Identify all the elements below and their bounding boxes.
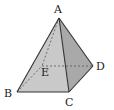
vertex-label-c: C (65, 96, 73, 109)
pyramid-svg: A B C D E (0, 0, 114, 110)
vertex-label-a: A (53, 3, 63, 16)
vertex-label-d: D (96, 60, 105, 73)
vertex-label-e: E (41, 66, 49, 79)
vertex-label-b: B (4, 87, 12, 100)
pyramid-diagram: A B C D E (0, 0, 114, 110)
